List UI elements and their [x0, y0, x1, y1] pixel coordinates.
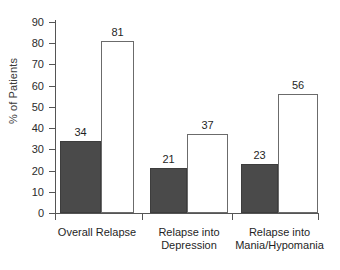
y-axis-tick	[49, 171, 55, 172]
category-label-line: Relapse into	[220, 226, 340, 239]
y-axis-tick	[49, 128, 55, 129]
x-axis-tick	[55, 214, 56, 220]
y-axis-tick-label: 40	[4, 123, 44, 134]
y-axis-tick-label: 60	[4, 81, 44, 92]
chart-figure: % of Patients 0102030405060708090 348121…	[0, 0, 340, 270]
y-axis-tick-label: 30	[4, 144, 44, 155]
bar-dark	[150, 168, 187, 213]
bar-value-label: 23	[240, 150, 280, 161]
bar-light	[101, 41, 134, 213]
bar-dark	[60, 141, 101, 213]
y-axis-tick	[49, 22, 55, 23]
bar-dark	[241, 164, 278, 213]
y-axis-tick	[49, 107, 55, 108]
y-axis-tick	[49, 64, 55, 65]
x-axis-line	[55, 213, 319, 214]
bar-value-label: 81	[98, 27, 138, 38]
bar-value-label: 34	[61, 127, 101, 138]
y-axis-tick-label: 10	[4, 187, 44, 198]
y-axis-tick	[49, 86, 55, 87]
bar-value-label: 37	[188, 120, 228, 131]
x-axis-category-label: Relapse intoMania/Hypomania	[220, 226, 340, 252]
y-axis-tick-label: 90	[4, 17, 44, 28]
y-axis-line	[55, 20, 56, 214]
x-axis-tick	[318, 214, 319, 220]
y-axis-tick-label: 70	[4, 59, 44, 70]
category-label-line: Mania/Hypomania	[220, 239, 340, 252]
y-axis-tick	[49, 192, 55, 193]
y-axis-tick-label: 80	[4, 38, 44, 49]
bar-value-label: 21	[149, 154, 189, 165]
y-axis-tick	[49, 43, 55, 44]
x-axis-tick	[232, 214, 233, 220]
bar-value-label: 56	[278, 80, 318, 91]
y-axis-tick-label: 20	[4, 166, 44, 177]
y-axis-tick	[49, 149, 55, 150]
y-axis-tick-label: 0	[4, 208, 44, 219]
bar-light	[278, 94, 318, 213]
x-axis-tick	[142, 214, 143, 220]
bar-light	[187, 134, 228, 213]
y-axis-tick-label: 50	[4, 102, 44, 113]
